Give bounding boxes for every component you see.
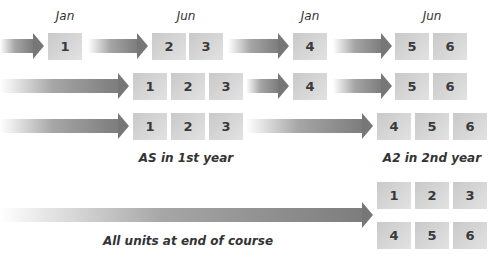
arrow-icon [0,113,129,139]
arrow-icon [0,202,373,228]
arrow-head [278,73,289,99]
unit-box-2: 2 [152,33,186,60]
unit-box-4: 4 [377,113,411,140]
column-label-jun-2: Jun [423,9,442,23]
arrow-head [381,73,392,99]
column-label-jan-2: Jan [301,9,320,23]
arrow-shaft [333,79,381,93]
caption-all-units: All units at end of course [103,234,273,248]
unit-box-3: 3 [453,182,487,209]
unit-box-4: 4 [293,73,327,100]
arrow-icon [246,73,289,99]
arrow-shaft [0,79,118,93]
unit-box-3: 3 [189,33,223,60]
arrow-head [33,33,44,59]
arrow-icon [246,113,373,139]
arrow-icon [228,33,289,59]
arrow-head [118,113,129,139]
arrow-head [362,202,373,228]
caption-as-first-year: AS in 1st year [139,151,233,165]
unit-box-1: 1 [48,33,82,60]
arrow-head [381,33,392,59]
unit-box-6: 6 [433,73,467,100]
column-label-jun-1: Jun [177,9,196,23]
unit-box-6: 6 [453,222,487,249]
arrow-head [278,33,289,59]
unit-box-4: 4 [293,33,327,60]
arrow-shaft [0,39,33,53]
unit-box-4: 4 [377,222,411,249]
unit-box-5: 5 [415,222,449,249]
unit-box-1: 1 [133,73,167,100]
arrow-icon [333,33,392,59]
unit-box-6: 6 [453,113,487,140]
arrow-head [118,73,129,99]
arrow-head [137,33,148,59]
unit-box-1: 1 [133,113,167,140]
unit-box-1: 1 [377,182,411,209]
unit-box-3: 3 [209,73,243,100]
caption-a2-second-year: A2 in 2nd year [383,151,481,165]
unit-box-3: 3 [209,113,243,140]
arrow-shaft [246,79,278,93]
arrow-shaft [246,119,362,133]
arrow-icon [0,33,44,59]
column-label-jan-1: Jan [56,9,75,23]
unit-box-5: 5 [395,33,429,60]
arrow-shaft [228,39,278,53]
unit-box-6: 6 [433,33,467,60]
arrow-shaft [0,208,362,222]
arrow-shaft [88,39,137,53]
arrow-shaft [333,39,381,53]
unit-box-2: 2 [415,182,449,209]
arrow-icon [88,33,148,59]
unit-box-2: 2 [171,113,205,140]
unit-box-2: 2 [171,73,205,100]
arrow-shaft [0,119,118,133]
arrow-head [362,113,373,139]
arrow-icon [0,73,129,99]
unit-box-5: 5 [395,73,429,100]
unit-box-5: 5 [415,113,449,140]
arrow-icon [333,73,392,99]
